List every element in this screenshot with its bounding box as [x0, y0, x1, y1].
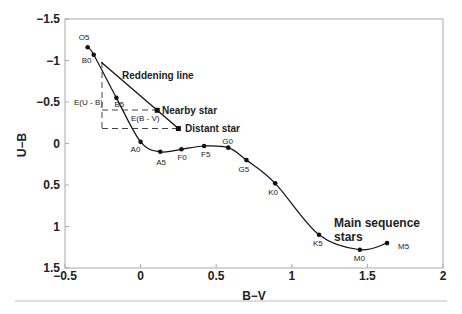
spectral-type-label: B0: [82, 56, 92, 65]
distant-star-label: Distant star: [185, 123, 240, 134]
star-point-a5: [158, 150, 163, 155]
spectral-type-label: K0: [268, 188, 278, 197]
y-tick-label: 1: [53, 220, 60, 234]
reddening-line-label: Reddening line: [122, 70, 194, 81]
star-point-m5: [385, 241, 390, 246]
star-point-k0: [273, 181, 278, 186]
star-point-a0: [138, 140, 143, 145]
star-point-g5: [244, 158, 249, 163]
x-tick-label: 1.5: [359, 269, 376, 283]
ebv-label: E(B - V): [131, 114, 160, 123]
star-point-o5: [85, 45, 90, 50]
star-point-k5: [317, 233, 322, 238]
main-sequence-label-2: stars: [334, 230, 363, 244]
y-tick-label: −0.5: [36, 95, 60, 109]
spectral-type-label: B5: [114, 100, 124, 109]
y-tick-label: 0: [53, 137, 60, 151]
main-sequence-label-1: Main sequence: [334, 216, 420, 230]
nearby-star-label: Nearby star: [162, 105, 217, 116]
x-tick-label: 1: [288, 269, 295, 283]
spectral-type-label: G5: [238, 165, 249, 174]
star-point-m0: [358, 247, 363, 252]
axis-ticks: [65, 19, 443, 268]
spectral-type-label: A0: [131, 145, 141, 154]
reddened-star-point: [176, 126, 181, 131]
spectral-type-label: K5: [313, 239, 323, 248]
color-color-diagram: −0.500.511.52−1.5−1−0.500.511.5 B−V U−B …: [0, 0, 462, 314]
plot-frame: [65, 19, 443, 268]
reddened-star-point: [155, 108, 160, 113]
x-tick-label: 2: [440, 269, 447, 283]
x-tick-label: 0: [137, 269, 144, 283]
x-tick-label: 0.5: [208, 269, 225, 283]
spectral-type-label: A5: [156, 158, 166, 167]
spectral-type-label: F5: [201, 150, 211, 159]
y-axis-title: U−B: [15, 132, 29, 157]
star-point-f0: [179, 147, 184, 152]
star-point-g0: [226, 145, 231, 150]
y-tick-label: −1: [46, 54, 60, 68]
spectral-type-label: M0: [354, 254, 366, 263]
y-tick-label: 1.5: [43, 261, 60, 275]
star-point-b0: [91, 52, 96, 57]
y-tick-label: 0.5: [43, 178, 60, 192]
spectral-type-label: O5: [79, 33, 90, 42]
eub-label: E(U - B): [74, 98, 103, 107]
star-point-f5: [202, 144, 207, 149]
spectral-type-label: F0: [177, 153, 187, 162]
spectral-type-label: M5: [398, 242, 410, 251]
y-tick-label: −1.5: [36, 12, 60, 26]
spectral-type-label: G0: [222, 137, 233, 146]
